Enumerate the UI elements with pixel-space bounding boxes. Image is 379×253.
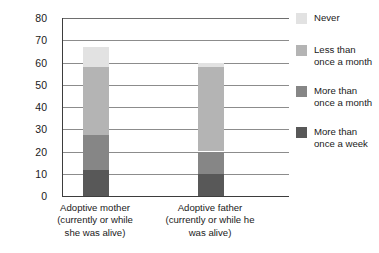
legend-item-label: More than once a month xyxy=(314,85,372,108)
legend-item[interactable]: Less than once a month xyxy=(296,44,372,67)
legend-item-label: Less than once a month xyxy=(314,44,372,67)
x-axis-category-label: Adoptive mother(currently or whileshe wa… xyxy=(30,202,160,239)
bar-segment xyxy=(198,174,224,196)
bar-segment xyxy=(83,47,109,67)
y-axis-tick-label: 40 xyxy=(0,102,55,113)
y-axis-tick-label: 0 xyxy=(0,191,55,202)
x-axis-label-line: (currently or while he xyxy=(145,214,275,226)
y-axis-tick-label: 60 xyxy=(0,57,55,68)
x-axis-label-line: Adoptive father xyxy=(145,202,275,214)
legend-item[interactable]: More than once a month xyxy=(296,85,372,108)
stacked-bar-chart: 80706050403020100 Adoptive mother(curren… xyxy=(0,0,379,253)
legend-swatch-icon xyxy=(296,127,307,138)
y-axis-tick-label: 70 xyxy=(0,35,55,46)
bar-segment xyxy=(83,67,109,135)
y-axis-tick-label: 80 xyxy=(0,13,55,24)
x-axis-label-line: was alive) xyxy=(145,227,275,239)
legend-swatch-icon xyxy=(296,13,307,24)
legend-item-label: Never xyxy=(314,12,340,24)
x-axis-category-label: Adoptive father(currently or while hewas… xyxy=(145,202,275,239)
plot-area xyxy=(62,18,289,197)
legend-item-label: More than once a week xyxy=(314,126,368,149)
bar-segment xyxy=(83,135,109,171)
y-axis-tick-label: 50 xyxy=(0,80,55,91)
bar-segment xyxy=(83,170,109,196)
bar-segment xyxy=(198,152,224,174)
y-axis-tick-label: 20 xyxy=(0,146,55,157)
x-axis-label-line: she was alive) xyxy=(30,227,160,239)
y-axis-tick-label: 30 xyxy=(0,124,55,135)
y-axis-tick-label: 10 xyxy=(0,169,55,180)
bar-segment xyxy=(198,63,224,67)
legend-item[interactable]: Never xyxy=(296,12,340,24)
legend-item[interactable]: More than once a week xyxy=(296,126,368,149)
bar-1 xyxy=(83,18,109,196)
legend-swatch-icon xyxy=(296,86,307,97)
bar-segment xyxy=(198,67,224,152)
x-axis-label-line: Adoptive mother xyxy=(30,202,160,214)
bar-2 xyxy=(198,18,224,196)
legend-swatch-icon xyxy=(296,45,307,56)
x-axis-label-line: (currently or while xyxy=(30,214,160,226)
